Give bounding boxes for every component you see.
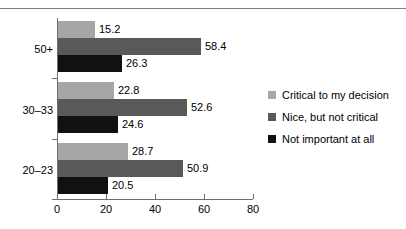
bar-50plus-critical: [58, 21, 95, 38]
bar-value-50plus-nice: 58.4: [205, 38, 226, 55]
chart-legend: Critical to my decision Nice, but not cr…: [268, 89, 389, 155]
bar-30-33-critical: [58, 82, 114, 99]
x-tick-label-60: 60: [184, 203, 224, 215]
chart-container: 0 20 40 60 80 50+ 30–33 20–23 15.2 58.4 …: [0, 0, 406, 229]
x-tick-label-0: 0: [37, 203, 77, 215]
legend-item-critical[interactable]: Critical to my decision: [268, 89, 389, 101]
category-label-30-33: 30–33: [22, 104, 53, 116]
legend-label-not-important: Not important at all: [282, 133, 374, 145]
x-tick-label-80: 80: [233, 203, 273, 215]
bar-value-20-23-not-important: 20.5: [112, 177, 133, 194]
y-tick-group-sep-3: [52, 199, 57, 200]
y-tick-group-sep-1: [52, 78, 57, 79]
bar-value-20-23-nice: 50.9: [187, 160, 208, 177]
legend-swatch-icon-critical: [268, 91, 276, 99]
category-label-20-23: 20–23: [22, 164, 53, 176]
legend-swatch-icon-nice: [268, 113, 276, 121]
bar-value-50plus-critical: 15.2: [99, 21, 120, 38]
x-tick-0: [57, 194, 58, 199]
legend-swatch-icon-not-important: [268, 135, 276, 143]
bar-value-50plus-not-important: 26.3: [126, 55, 147, 72]
x-axis-line: [57, 199, 253, 200]
bar-20-23-nice: [58, 160, 183, 177]
bar-30-33-nice: [58, 99, 187, 116]
category-label-50-plus: 50+: [34, 43, 53, 55]
bar-value-20-23-critical: 28.7: [132, 143, 153, 160]
x-tick-40: [155, 194, 156, 199]
legend-label-nice: Nice, but not critical: [282, 111, 378, 123]
x-tick-label-40: 40: [135, 203, 175, 215]
bar-value-30-33-nice: 52.6: [191, 99, 212, 116]
bar-value-30-33-not-important: 24.6: [122, 116, 143, 133]
y-tick-group-sep-2: [52, 139, 57, 140]
legend-item-not-important[interactable]: Not important at all: [268, 133, 389, 145]
legend-label-critical: Critical to my decision: [282, 89, 389, 101]
bar-30-33-not-important: [58, 116, 118, 133]
x-tick-20: [106, 194, 107, 199]
x-tick-60: [204, 194, 205, 199]
bar-20-23-not-important: [58, 177, 108, 194]
x-tick-label-20: 20: [86, 203, 126, 215]
bar-20-23-critical: [58, 143, 128, 160]
bar-50plus-not-important: [58, 55, 122, 72]
bar-50plus-nice: [58, 38, 201, 55]
bar-value-30-33-critical: 22.8: [118, 82, 139, 99]
x-tick-80: [253, 194, 254, 199]
legend-item-nice[interactable]: Nice, but not critical: [268, 111, 389, 123]
